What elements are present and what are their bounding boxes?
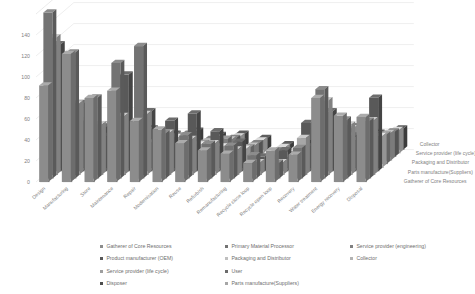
y-axis-tick-label: 140 <box>21 32 30 38</box>
bar <box>289 155 298 182</box>
legend-item[interactable]: Disposer <box>100 278 225 291</box>
legend-label: Disposer <box>106 281 126 286</box>
legend-item[interactable]: Gatherer of Core Resources <box>100 240 225 253</box>
legend-label: Service provider (engineering) <box>356 244 426 249</box>
bar-series <box>39 51 369 182</box>
bar-side <box>403 125 407 149</box>
y-axis-tick-label: 0 <box>27 179 30 185</box>
bar <box>357 117 366 182</box>
x-axis-category-label: Maintenance <box>89 185 114 209</box>
bar-side <box>143 43 147 179</box>
legend-label: Parts manufacture(Suppliers) <box>231 281 298 286</box>
legend-item[interactable]: Service provider (engineering) <box>350 240 475 253</box>
bar <box>221 154 230 182</box>
bar-side <box>306 135 310 175</box>
legend-swatch-icon <box>225 282 228 285</box>
x-axis-category-label: Disposal <box>345 185 363 202</box>
legend-item[interactable]: Primary Material Processor <box>225 240 350 253</box>
bar <box>39 85 48 182</box>
x-axis-category-label: Store <box>79 185 92 198</box>
bar-side <box>230 150 234 182</box>
legend-swatch-icon <box>100 245 103 248</box>
legend-label: Service provider (life cycle) <box>106 269 168 274</box>
bar-side <box>252 160 256 182</box>
bar-side <box>71 51 75 182</box>
bar-side <box>57 34 61 175</box>
bar-side <box>298 151 302 182</box>
bar-side <box>102 121 106 175</box>
bar <box>266 151 275 183</box>
bar-side <box>256 152 260 178</box>
bar-side <box>211 141 215 179</box>
bar-side <box>94 95 98 182</box>
chart-legend: Gatherer of Core ResourcesProduct manufa… <box>100 240 475 294</box>
legend-label: Gatherer of Core Resources <box>106 244 171 249</box>
bar <box>198 151 207 183</box>
bar-side <box>184 140 188 182</box>
chart-root: 020406080100120140 DesignManufacturingSt… <box>0 0 475 294</box>
legend-item[interactable]: Packaging and Distributor <box>225 253 350 266</box>
bar-side <box>147 111 151 175</box>
legend-swatch-icon <box>350 257 353 260</box>
legend-item[interactable]: Parts manufacture(Suppliers) <box>225 278 350 291</box>
y-axis-tick-label: 40 <box>24 137 30 143</box>
bar-side <box>193 136 197 175</box>
legend-item[interactable]: Product manufacturer (OEM) <box>100 253 225 266</box>
x-axis-category-label: Refurbish <box>185 185 205 204</box>
bar <box>334 116 343 182</box>
bar-side <box>324 86 328 178</box>
legend-label: Collector <box>356 256 376 261</box>
bar-side <box>52 9 56 178</box>
bar-side <box>382 133 386 168</box>
bar <box>311 98 320 182</box>
bar-side <box>378 94 382 171</box>
legend-swatch-icon <box>100 270 103 273</box>
bar-side <box>120 60 124 179</box>
legend-item[interactable]: User <box>225 265 350 278</box>
bar <box>175 143 184 182</box>
legend-label: User <box>231 269 242 274</box>
bar-side <box>395 128 399 156</box>
x-axis-category-label: Repair <box>122 185 137 200</box>
bar-side <box>351 121 355 175</box>
depth-axis-label: Parts manufacture(Suppliers) <box>408 169 473 175</box>
legend-label: Packaging and Distributor <box>231 256 290 261</box>
bar-side <box>75 49 79 178</box>
legend-swatch-icon <box>225 270 228 273</box>
bar <box>85 98 94 182</box>
bar-side <box>170 130 174 175</box>
bar-side <box>188 132 192 178</box>
bars-layer <box>39 9 407 182</box>
bar-side <box>116 87 120 182</box>
bar-side <box>366 114 370 182</box>
bar-side <box>399 127 403 153</box>
bar-side <box>275 147 279 182</box>
x-axis-category-label: Modernisation <box>132 185 160 211</box>
y-axis-tick-label: 100 <box>21 74 30 80</box>
y-axis-ticks: 020406080100120140 <box>21 32 30 185</box>
bar-side <box>387 131 391 164</box>
depth-axis-labels: CollectorService provider (life cycle)Pa… <box>404 141 475 184</box>
bar-side <box>238 146 242 174</box>
x-axis-category-labels: DesignManufacturingStoreMaintenanceRepai… <box>31 185 364 218</box>
bar-side <box>279 159 283 178</box>
legend-item[interactable]: Collector <box>350 253 475 266</box>
legend-swatch-icon <box>350 245 353 248</box>
legend-swatch-icon <box>225 257 228 260</box>
x-axis-category-label: Recovery <box>276 185 296 204</box>
bar-side <box>374 117 378 175</box>
bar-side <box>125 113 129 175</box>
bar-side <box>48 82 52 182</box>
y-axis-tick-label: 80 <box>24 95 30 101</box>
y-axis-tick-label: 120 <box>21 53 30 59</box>
y-axis-tick-label: 60 <box>24 116 30 122</box>
legend-label: Product manufacturer (OEM) <box>106 256 173 261</box>
y-axis-tick-label: 20 <box>24 158 30 164</box>
legend-item[interactable]: Service provider (life cycle) <box>100 265 225 278</box>
bar-side <box>343 113 347 182</box>
depth-axis-label: Packaging and Distributor <box>412 159 470 165</box>
legend-swatch-icon <box>100 257 103 260</box>
bar-side <box>166 130 170 178</box>
bar-side <box>320 95 324 182</box>
bar <box>107 91 116 182</box>
